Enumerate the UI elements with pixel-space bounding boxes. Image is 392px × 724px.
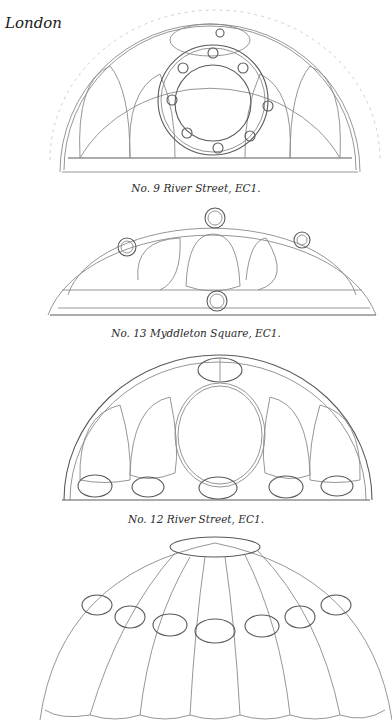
figure-caption: No. 13 Myddleton Square, EC1.	[0, 327, 392, 339]
fanlight-sketch-river-street-12	[0, 345, 392, 510]
fanlight-sketch-myddleton-square-13	[0, 200, 392, 325]
figure-caption: No. 12 River Street, EC1.	[0, 513, 392, 525]
figure-caption: No. 9 River Street, EC1.	[0, 182, 392, 194]
fanlight-sketch-river-street-9	[0, 0, 392, 180]
fanlight-sketch-dome	[0, 535, 392, 724]
